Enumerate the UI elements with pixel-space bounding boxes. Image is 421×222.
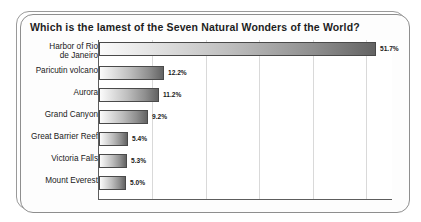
- gridline: [366, 40, 367, 199]
- bar-value-label: 12.2%: [168, 69, 187, 76]
- category-label: Great Barrier Reef: [31, 132, 98, 141]
- chart-body: Harbor of Rio de Janeiro Paricutin volca…: [20, 40, 410, 204]
- bar[interactable]: [99, 66, 164, 80]
- bar-value-label: 51.7%: [380, 45, 399, 52]
- category-label: Paricutin volcano: [36, 66, 98, 75]
- category-axis-labels: Harbor of Rio de Janeiro Paricutin volca…: [20, 40, 98, 200]
- chart-title: Which is the lamest of the Seven Natural…: [30, 21, 360, 33]
- chart-screenshot: Which is the lamest of the Seven Natural…: [0, 0, 421, 222]
- category-label: Victoria Falls: [51, 154, 98, 163]
- category-label: Harbor of Rio de Janeiro: [49, 42, 98, 61]
- bar-value-label: 11.2%: [163, 91, 181, 98]
- gridline: [152, 40, 153, 199]
- category-label: Aurora: [73, 88, 98, 97]
- bar-value-label: 5.3%: [131, 157, 146, 164]
- bar[interactable]: [99, 154, 127, 168]
- bar-value-label: 9.2%: [152, 113, 167, 120]
- category-label: Grand Canyon: [45, 110, 98, 119]
- gridline: [259, 40, 260, 199]
- chart-content: Which is the lamest of the Seven Natural…: [20, 14, 410, 213]
- bar[interactable]: [99, 110, 148, 124]
- bar[interactable]: [99, 132, 128, 146]
- bar[interactable]: [99, 88, 159, 102]
- plot-area: 51.7% 12.2% 11.2% 9.2% 5.4%: [98, 40, 392, 200]
- gridline: [206, 40, 207, 199]
- bar-value-label: 5.4%: [132, 135, 147, 142]
- bar[interactable]: [99, 176, 126, 190]
- bar-value-label: 5.0%: [130, 179, 145, 186]
- category-label: Mount Everest: [45, 176, 98, 185]
- bar[interactable]: [99, 42, 376, 56]
- gridline: [313, 40, 314, 199]
